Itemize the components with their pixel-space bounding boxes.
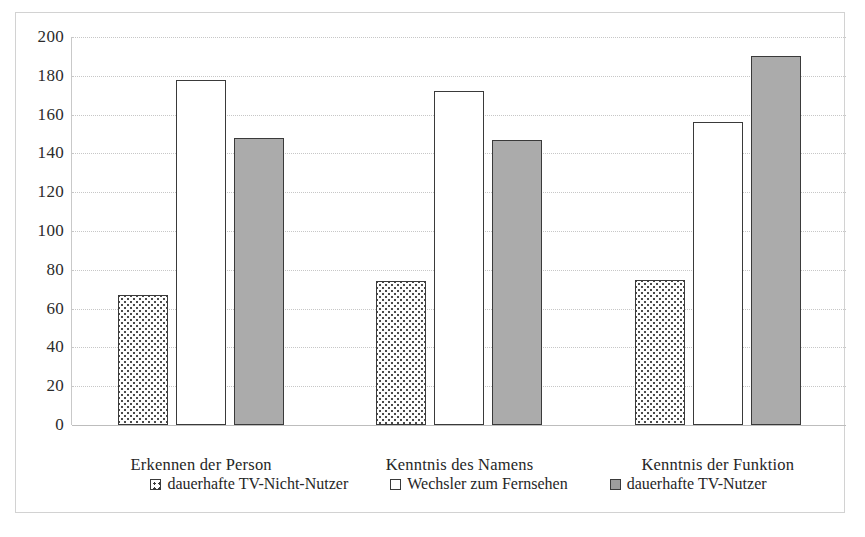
category-label: Kenntnis der Funktion — [641, 455, 794, 475]
y-axis-tick-label: 160 — [38, 104, 64, 124]
bar[interactable] — [751, 56, 801, 425]
bar[interactable] — [492, 140, 542, 425]
y-axis-tick-label: 200 — [38, 27, 64, 47]
bar[interactable] — [635, 280, 685, 426]
bar[interactable] — [176, 80, 226, 425]
category-label: Kenntnis des Namens — [386, 455, 534, 475]
y-axis-tick-label: 0 — [55, 415, 64, 435]
y-axis-tick-label: 80 — [46, 259, 64, 279]
y-axis-tick-label: 60 — [46, 298, 64, 318]
bar[interactable] — [234, 138, 284, 425]
bar-layer — [72, 37, 846, 425]
chart-frame: 200180160140120100806040200 Erkennen der… — [15, 12, 845, 513]
legend-label: dauerhafte TV-Nicht-Nutzer — [167, 475, 348, 493]
axis-baseline — [72, 425, 846, 426]
legend-label: Wechsler zum Fernsehen — [407, 475, 567, 493]
legend-swatch-icon — [150, 479, 161, 490]
legend-item[interactable]: dauerhafte TV-Nicht-Nutzer — [150, 475, 348, 493]
bar[interactable] — [376, 281, 426, 425]
bar[interactable] — [118, 295, 168, 425]
y-axis-tick-label: 140 — [38, 143, 64, 163]
legend-item[interactable]: dauerhafte TV-Nutzer — [610, 475, 767, 493]
legend-item[interactable]: Wechsler zum Fernsehen — [390, 475, 567, 493]
y-axis-tick-label: 40 — [46, 337, 64, 357]
bar[interactable] — [434, 91, 484, 425]
bar-group — [589, 37, 847, 425]
legend-label: dauerhafte TV-Nutzer — [627, 475, 767, 493]
y-axis-tick-label: 180 — [38, 65, 64, 85]
chart-legend: dauerhafte TV-Nicht-NutzerWechsler zum F… — [71, 475, 846, 493]
y-axis-tick-label: 20 — [46, 376, 64, 396]
y-axis-tick-label: 120 — [38, 182, 64, 202]
legend-swatch-icon — [390, 479, 401, 490]
category-label: Erkennen der Person — [131, 455, 272, 475]
bar-group — [72, 37, 330, 425]
y-axis-tick-label: 100 — [38, 221, 64, 241]
bar[interactable] — [693, 122, 743, 425]
bar-group — [330, 37, 588, 425]
plot-area: 200180160140120100806040200 Erkennen der… — [71, 37, 846, 425]
legend-swatch-icon — [610, 479, 621, 490]
